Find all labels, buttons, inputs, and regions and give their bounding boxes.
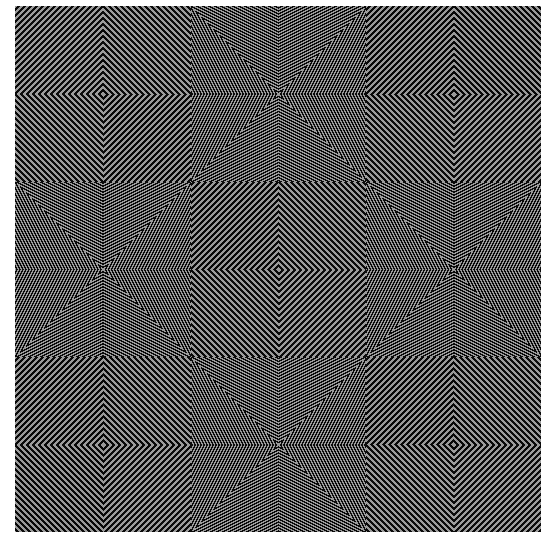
op-art-pattern <box>15 6 541 532</box>
